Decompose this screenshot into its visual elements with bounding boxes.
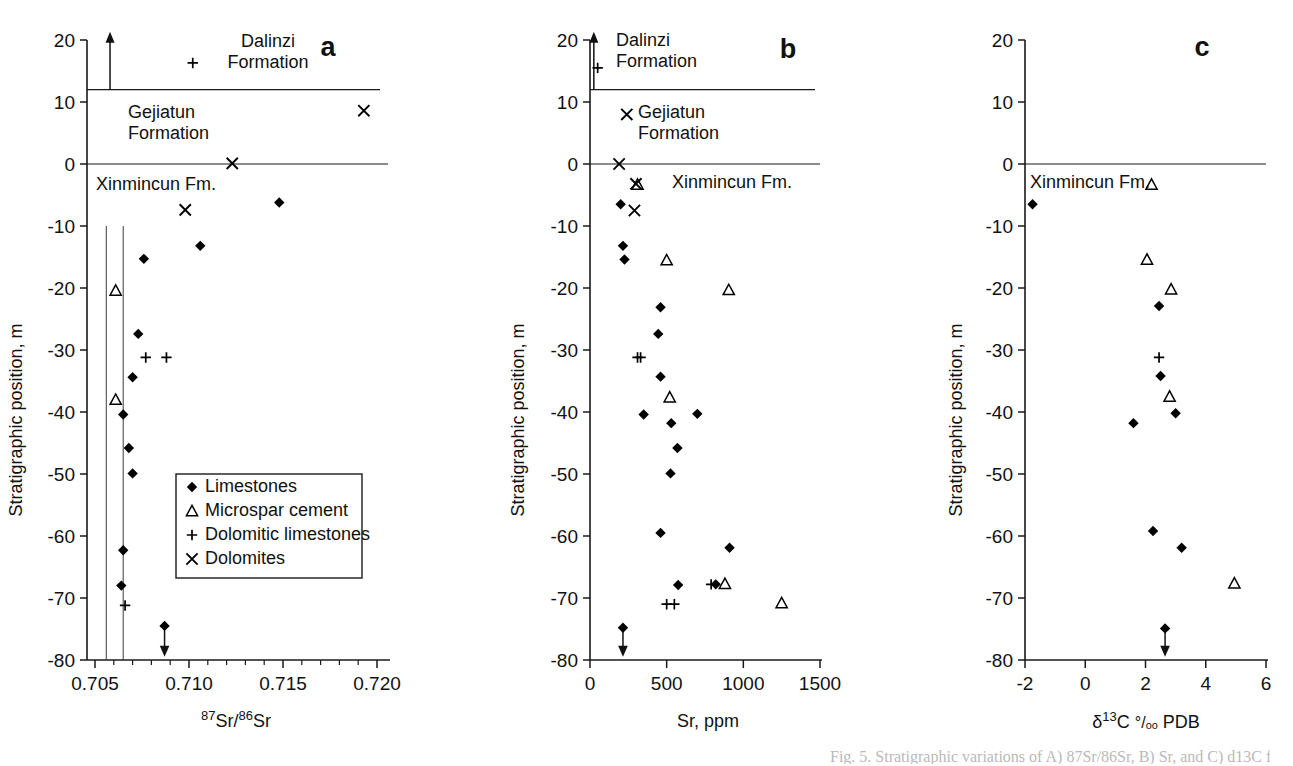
marker-dolomite <box>227 158 238 169</box>
marker-limestone <box>655 528 665 538</box>
x-tick-label: 2 <box>1140 673 1151 694</box>
marker-limestone <box>1160 623 1170 633</box>
x-tick-label: 500 <box>651 673 683 694</box>
series-triangle <box>632 179 787 608</box>
marker-limestone <box>673 580 683 590</box>
y-axis-title: Stratigraphic position, m <box>946 323 966 516</box>
xinmincun-formation-label: Xinmincun Fm. <box>96 174 216 194</box>
marker-dolomite <box>621 109 632 120</box>
y-tick-label: -40 <box>48 402 75 423</box>
panel-b-sr-ppm-chart: 20100-10-20-30-40-50-60-70-8005001000150… <box>420 0 860 766</box>
legend-item: Microspar cement <box>186 500 348 520</box>
y-tick-label: -80 <box>986 650 1013 671</box>
marker-limestone <box>118 409 128 419</box>
y-tick-label: -20 <box>551 278 578 299</box>
marker-limestone <box>1176 543 1186 553</box>
y-tick-label: 20 <box>992 30 1013 51</box>
marker-limestone <box>655 371 665 381</box>
y-tick-label: -60 <box>551 526 578 547</box>
marker-dolomitic-limestone <box>188 58 198 68</box>
figure-container: 20100-10-20-30-40-50-60-70-800.7050.7100… <box>0 0 1293 766</box>
down-arrow-annotation <box>1160 632 1170 656</box>
figure-caption-fragment: Fig. 5. Stratigraphic variations of A) 8… <box>830 748 1270 764</box>
marker-microspar-cement <box>110 394 121 404</box>
formation-labels: Xinmincun Fm. <box>1030 172 1150 192</box>
marker-dolomite <box>358 105 369 116</box>
x-tick-label: 0.720 <box>353 673 401 694</box>
x-tick-label: 4 <box>1200 673 1211 694</box>
x-tick-label: -2 <box>1017 673 1034 694</box>
marker-microspar-cement <box>110 285 121 295</box>
gejiatun-formation-label: Formation <box>638 123 719 143</box>
down-arrow-annotation <box>160 630 170 657</box>
y-tick-label: -40 <box>551 402 578 423</box>
y-tick-label: 10 <box>54 92 75 113</box>
y-axis-title: Stratigraphic position, m <box>508 323 528 516</box>
legend-item: Dolomitic limestones <box>187 524 370 544</box>
marker-limestone <box>274 197 284 207</box>
x-axis-title: δ13C °/ₒₒ PDB <box>1092 709 1199 733</box>
xinmincun-formation-label: Xinmincun Fm. <box>1030 172 1150 192</box>
marker-limestone <box>724 543 734 553</box>
marker-dolomitic-limestone <box>1154 352 1164 362</box>
x-tick-group: -20246 <box>1017 660 1272 694</box>
marker-microspar-cement <box>664 392 675 402</box>
marker-limestone <box>666 418 676 428</box>
legend-cross-icon <box>186 553 197 564</box>
y-tick-group: 20100-10-20-30-40-50-60-70-80 <box>48 30 87 671</box>
legend-item-label: Dolomitic limestones <box>205 524 370 544</box>
series-triangle <box>110 285 121 404</box>
x-tick-label: 1500 <box>799 673 841 694</box>
series-plus <box>592 63 716 610</box>
marker-limestone <box>638 409 648 419</box>
series-diamond <box>615 199 734 633</box>
gejiatun-formation-label: Gejiatun <box>638 102 705 122</box>
marker-limestone <box>1148 526 1158 536</box>
series-cross <box>180 105 370 215</box>
gejiatun-formation-label: Formation <box>128 123 209 143</box>
marker-microspar-cement <box>1166 284 1177 294</box>
y-tick-label: -10 <box>986 216 1013 237</box>
marker-microspar-cement <box>723 284 734 294</box>
y-tick-label: 0 <box>567 154 578 175</box>
marker-limestone <box>665 468 675 478</box>
y-tick-label: -80 <box>551 650 578 671</box>
reference-lines <box>106 226 123 660</box>
y-tick-label: 10 <box>557 92 578 113</box>
x-tick-label: 0.715 <box>259 673 307 694</box>
panel-letter-c: c <box>1194 32 1209 62</box>
dalinzi-formation-label: Dalinzi <box>241 31 295 51</box>
y-tick-label: -10 <box>48 216 75 237</box>
marker-limestone <box>1170 408 1180 418</box>
series-diamond <box>1027 199 1187 633</box>
legend-item: Dolomites <box>186 548 285 568</box>
marker-limestone <box>619 254 629 264</box>
marker-limestone <box>127 468 137 478</box>
x-tick-label: 0.710 <box>165 673 213 694</box>
marker-microspar-cement <box>661 255 672 265</box>
series-plus <box>1154 352 1164 362</box>
y-tick-label: -60 <box>986 526 1013 547</box>
y-tick-label: -50 <box>551 464 578 485</box>
y-tick-label: -80 <box>48 650 75 671</box>
dalinzi-formation-label: Dalinzi <box>616 30 670 50</box>
legend-item-label: Limestones <box>205 476 297 496</box>
legend-plus-icon <box>187 530 197 540</box>
y-tick-label: -30 <box>551 340 578 361</box>
x-axis-title: Sr, ppm <box>677 711 739 731</box>
x-tick-label: 0 <box>1080 673 1091 694</box>
y-tick-group: 20100-10-20-30-40-50-60-70-80 <box>986 30 1025 671</box>
y-tick-label: -10 <box>551 216 578 237</box>
x-tick-label: 1000 <box>722 673 764 694</box>
y-tick-label: 0 <box>64 154 75 175</box>
marker-limestone <box>159 621 169 631</box>
series-triangle <box>1141 179 1240 588</box>
marker-limestone <box>127 372 137 382</box>
y-tick-label: 20 <box>557 30 578 51</box>
marker-microspar-cement <box>1141 254 1152 264</box>
y-tick-label: -70 <box>551 588 578 609</box>
formation-labels: DalinziFormationGejiatunFormationXinminc… <box>96 31 309 194</box>
y-tick-label: -70 <box>48 588 75 609</box>
y-tick-label: -50 <box>48 464 75 485</box>
marker-microspar-cement <box>1229 578 1240 588</box>
